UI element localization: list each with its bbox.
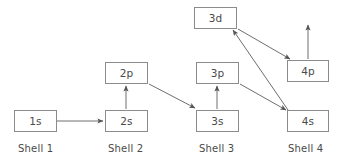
orbital-box-3p: 3p: [196, 62, 239, 84]
orbital-label: 3d: [209, 13, 223, 24]
orbital-box-3s: 3s: [196, 110, 239, 132]
orbital-label: 1s: [29, 116, 42, 127]
orbital-label: 2p: [120, 68, 134, 79]
orbital-label: 3s: [211, 116, 224, 127]
arrow-3d-to-4p: [238, 29, 290, 59]
orbital-box-3d: 3d: [194, 7, 237, 29]
orbital-filling-diagram: 1s2p2s3p3s3d4p4s Shell 1Shell 2Shell 3Sh…: [0, 0, 342, 163]
shell-label-3: Shell 3: [199, 144, 234, 154]
shell-label-1: Shell 1: [18, 144, 53, 154]
orbital-box-4p: 4p: [287, 60, 329, 82]
orbital-label: 2s: [120, 116, 133, 127]
orbital-box-4s: 4s: [287, 110, 329, 132]
orbital-box-2s: 2s: [105, 110, 148, 132]
orbital-box-2p: 2p: [105, 62, 148, 84]
arrow-2p-to-3s: [149, 84, 195, 108]
shell-label-2: Shell 2: [108, 144, 143, 154]
orbital-label: 3p: [211, 68, 225, 79]
orbital-box-1s: 1s: [14, 110, 57, 132]
arrow-4s-to-3d: [233, 30, 288, 110]
arrow-3p-to-4s: [240, 84, 286, 110]
orbital-label: 4s: [302, 116, 315, 127]
orbital-label: 4p: [301, 66, 315, 77]
shell-label-4: Shell 4: [288, 144, 323, 154]
